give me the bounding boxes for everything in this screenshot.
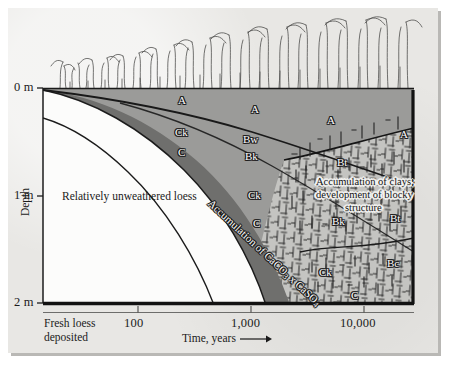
y-tick-1m: 1 m [14,189,34,203]
figure-page: Depth 0 m 1 m 2 m Fresh loess deposited … [0,0,452,369]
x-tick-100: 100 [124,317,143,331]
horizon-label-a-3: A [327,114,335,126]
horizon-label-bw-1: Bw [243,133,258,145]
horizon-label-ck-1: Ck [175,126,188,138]
annotation-unweathered-loess: Relatively unweathered loess [62,190,197,202]
clay-callout-line1: Accumulation of clays; [316,176,414,188]
y-tick-2m: 2 m [14,296,34,310]
horizon-label-c-2: C [253,217,260,229]
clay-callout-line2: development of blocky [316,189,413,201]
x-origin-label-line1: Fresh loess [44,317,95,329]
horizon-label-bk-2: Bk [332,215,345,227]
y-tick-0m: 0 m [14,81,34,95]
horizon-label-a-4: A [400,128,408,140]
horizon-label-bc-1: Bc [387,257,399,269]
horizon-label-bt-2: Bt [390,212,400,224]
horizon-label-c-3: C [351,289,358,301]
x-origin-label-line2: deposited [44,331,88,343]
prairie-vegetation [51,17,422,88]
horizon-label-ck-3: Ck [319,266,332,278]
x-tick-10000: 10,000 [340,317,376,331]
x-tick-1000: 1,000 [231,317,260,331]
clay-callout-line3: structure [345,202,382,214]
horizon-label-a-1: A [178,94,186,106]
x-axis-title: Time, years [182,332,236,344]
horizon-label-a-2: A [251,103,259,115]
y-axis-ticks [37,88,43,303]
x-axis-ticks [138,306,364,313]
horizon-label-bk-1: Bk [245,150,258,162]
time-arrow-icon [240,336,272,343]
horizon-label-ck-2: Ck [248,189,261,201]
horizon-label-bt-1: Bt [337,156,347,168]
horizon-label-c-1: C [178,146,185,158]
